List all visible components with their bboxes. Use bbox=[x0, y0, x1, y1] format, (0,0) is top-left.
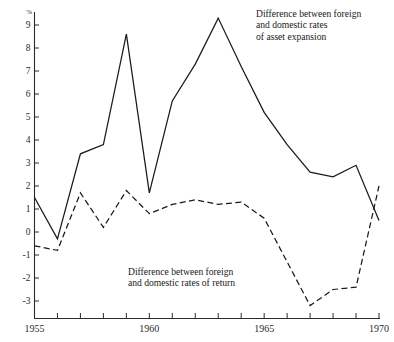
series-line-asset-expansion bbox=[35, 18, 380, 239]
y-tick-label: -1 bbox=[23, 250, 31, 260]
y-tick-label: 3 bbox=[26, 158, 31, 168]
y-tick-group: 9876543210-1-2-3 bbox=[23, 20, 39, 306]
y-tick-label: -2 bbox=[23, 273, 31, 283]
annotation-rates-of-return: Difference between foreign and domestic … bbox=[128, 266, 235, 289]
chart-figure: 9876543210-1-2-3 1955196019651970 % Diff… bbox=[0, 0, 394, 342]
y-tick-label: -3 bbox=[23, 296, 31, 306]
y-tick-label: 7 bbox=[26, 66, 31, 76]
chart-canvas: 9876543210-1-2-3 1955196019651970 % bbox=[0, 0, 394, 342]
x-tick-label: 1960 bbox=[139, 323, 159, 334]
x-tick-label: 1970 bbox=[369, 323, 389, 334]
y-tick-label: 4 bbox=[26, 135, 31, 145]
annotation-asset-expansion: Difference between foreign and domestic … bbox=[256, 8, 361, 42]
y-axis-unit-label: % bbox=[26, 8, 32, 16]
x-tick-label: 1965 bbox=[254, 323, 274, 334]
x-tick-label: 1955 bbox=[25, 323, 45, 334]
y-tick-label: 5 bbox=[26, 112, 31, 122]
x-tick-group: 1955196019651970 bbox=[25, 313, 390, 334]
y-tick-label: 0 bbox=[26, 227, 31, 237]
y-tick-label: 1 bbox=[26, 204, 31, 214]
y-tick-label: 9 bbox=[26, 20, 31, 30]
y-tick-label: 8 bbox=[26, 43, 31, 53]
y-tick-label: 2 bbox=[26, 181, 31, 191]
y-tick-label: 6 bbox=[26, 89, 31, 99]
